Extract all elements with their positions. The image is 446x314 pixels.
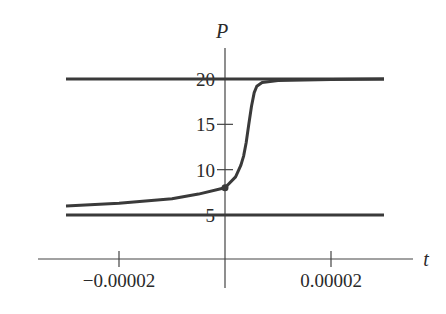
y-axis-label: P (215, 20, 228, 42)
y-tick-label: 10 (196, 160, 215, 181)
initial-point-marker (222, 184, 229, 191)
x-tick-label: −0.00002 (83, 270, 155, 291)
chart: Pt5101520−0.000020.00002 (0, 0, 446, 314)
x-tick-label: 0.00002 (300, 270, 362, 291)
y-tick-label: 15 (196, 114, 215, 135)
x-axis-label: t (423, 248, 429, 270)
